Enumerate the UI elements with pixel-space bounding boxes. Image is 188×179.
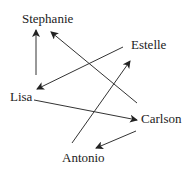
node-estelle: Estelle — [131, 38, 166, 51]
edge-carlson-antonio — [96, 131, 136, 148]
edge-carlson-stephanie — [51, 32, 137, 103]
edge-estelle-lisa — [37, 47, 123, 89]
edge-lisa-carlson — [34, 100, 137, 120]
diagram: Stephanie Estelle Lisa Carlson Antonio — [0, 0, 188, 179]
node-carlson: Carlson — [141, 112, 181, 125]
node-lisa: Lisa — [10, 90, 32, 103]
node-stephanie: Stephanie — [22, 12, 73, 25]
node-antonio: Antonio — [62, 151, 105, 164]
